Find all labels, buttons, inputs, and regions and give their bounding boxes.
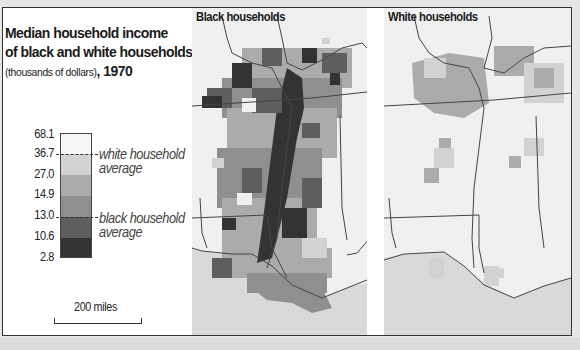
legend-tick: 13.0 <box>10 208 54 222</box>
legend-tick: 2.8 <box>10 250 54 264</box>
legend-swatch-2 <box>60 154 92 175</box>
legend-swatch-6 <box>60 238 92 258</box>
legend-tick: 27.0 <box>10 167 54 181</box>
legend-swatch-3 <box>60 175 92 196</box>
figure-title: Median household income of black and whi… <box>5 23 192 82</box>
legend-swatch-1 <box>60 133 92 154</box>
map-white-households <box>384 8 571 335</box>
map-title-white: White households <box>388 10 478 24</box>
black-average-label: black household average <box>99 211 185 239</box>
white-average-line <box>56 154 98 155</box>
white-average-label: white household average <box>99 147 185 175</box>
title-line-1: Median household income <box>5 23 192 42</box>
legend-tick: 10.6 <box>10 229 54 243</box>
map-gap <box>367 8 384 335</box>
title-line-2: of black and white households <box>5 42 192 61</box>
map-title-black: Black households <box>196 10 285 24</box>
legend-tick: 68.1 <box>10 127 54 141</box>
map-black-households <box>192 8 367 335</box>
scale-label: 200 miles <box>74 300 117 314</box>
title-year: 1970 <box>103 62 132 79</box>
scale-bar <box>54 318 142 324</box>
bottom-strip <box>0 338 580 350</box>
map-white-svg <box>384 8 571 335</box>
legend-swatch-4 <box>60 196 92 217</box>
black-average-line <box>56 217 98 218</box>
title-subtitle: (thousands of dollars) <box>5 66 97 78</box>
map-black-svg <box>192 8 367 335</box>
legend-tick: 14.9 <box>10 187 54 201</box>
legend-tick: 36.7 <box>10 146 54 160</box>
legend-swatch-5 <box>60 217 92 238</box>
